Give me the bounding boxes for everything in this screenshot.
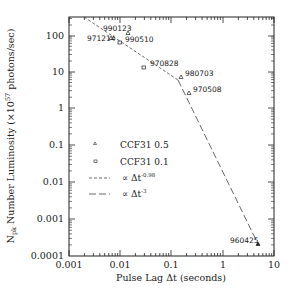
y-tick-0.01: 0.01 xyxy=(43,176,64,187)
y-tick-0.1: 0.1 xyxy=(49,139,64,150)
y-tick-100: 100 xyxy=(46,30,64,41)
y-axis-exponent: 57 xyxy=(4,93,12,101)
marker-990510 xyxy=(118,41,122,44)
plot-frame xyxy=(69,17,274,256)
luminosity-vs-lag-chart: 100 10 1 0.1 0.01 0.001 0.0001 0.001 0.0… xyxy=(0,0,294,300)
x-axis-title: Pulse Lag Δt (seconds) xyxy=(116,272,226,283)
y-tick-labels: 100 10 1 0.1 0.01 0.001 0.0001 xyxy=(31,30,64,261)
label-980703: 980703 xyxy=(185,69,214,78)
x-tick-0.01: 0.01 xyxy=(109,259,130,270)
label-970508: 970508 xyxy=(193,85,222,94)
y-axis-title: NpkNumber Luminosity (×1057 photons/sec) xyxy=(4,29,18,244)
x-tick-1: 1 xyxy=(220,259,226,270)
y-axis-label-tail: photons/sec) xyxy=(5,29,16,93)
legend-triangle-icon xyxy=(94,142,97,145)
data-points xyxy=(109,31,260,246)
y-axis-label-main: Number Luminosity (×10 xyxy=(5,101,16,224)
point-labels: 990123 971214 990510 970828 980703 97050… xyxy=(87,24,259,245)
label-971214: 971214 xyxy=(87,34,116,43)
y-axis-minor-ticks xyxy=(69,19,274,245)
x-axis-ticks xyxy=(69,17,274,256)
label-970828: 970828 xyxy=(150,59,179,68)
label-990510: 990510 xyxy=(125,35,154,44)
marker-970508 xyxy=(187,91,191,95)
x-tick-labels: 0.001 0.01 0.1 1 10 xyxy=(55,259,280,270)
legend: CCF31 0.5 CCF31 0.1 ∝ Δt-0.98 ∝ Δt-3 xyxy=(89,140,169,199)
fit-line-powerlaw-3 xyxy=(178,80,258,244)
legend-powerlaw-3: ∝ Δt-3 xyxy=(122,188,147,199)
legend-square-icon xyxy=(94,160,97,163)
y-axis-symbol: N xyxy=(5,235,16,243)
y-tick-1: 1 xyxy=(58,102,64,113)
x-tick-0.001: 0.001 xyxy=(55,259,82,270)
y-tick-10: 10 xyxy=(52,66,64,77)
marker-970828 xyxy=(142,66,146,69)
y-tick-0.001: 0.001 xyxy=(37,213,64,224)
x-tick-10: 10 xyxy=(268,259,280,270)
x-tick-0.1: 0.1 xyxy=(163,259,178,270)
marker-980703 xyxy=(179,75,183,79)
label-990123: 990123 xyxy=(103,24,132,33)
legend-ccf31-0.5: CCF31 0.5 xyxy=(120,140,169,150)
legend-ccf31-0.1: CCF31 0.1 xyxy=(120,157,169,167)
legend-powerlaw-0.98: ∝ Δt-0.98 xyxy=(122,172,156,183)
label-960425: 960425 xyxy=(230,236,259,245)
y-axis-subscript: pk xyxy=(10,227,18,235)
